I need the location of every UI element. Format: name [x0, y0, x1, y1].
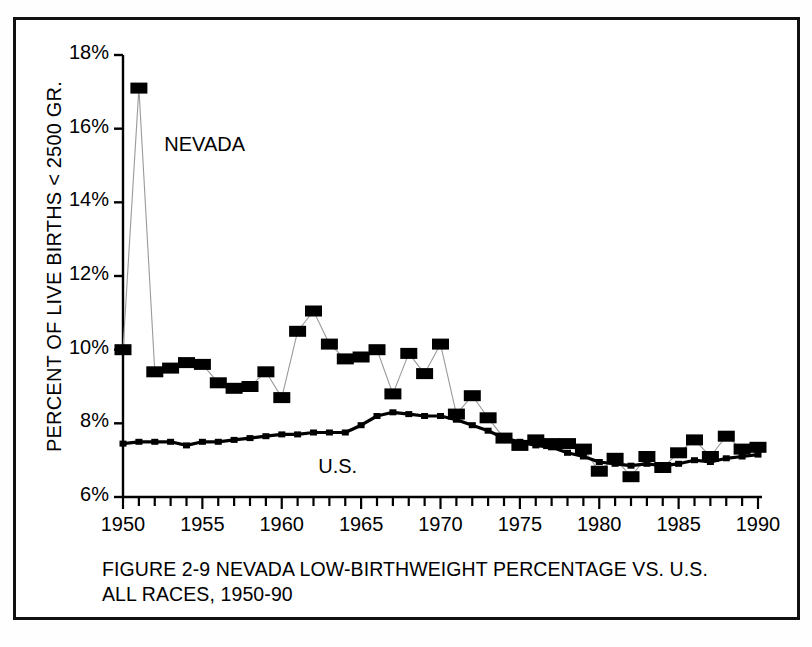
data-point-marker [310, 430, 317, 436]
figure-root: PERCENT OF LIVE BIRTHS < 2500 GR. 18%16%… [0, 0, 812, 647]
data-point-marker [612, 461, 619, 467]
data-point-marker [135, 439, 142, 445]
data-point-marker [670, 447, 687, 458]
data-point-marker [480, 412, 497, 423]
data-point-marker [691, 457, 698, 463]
data-point-marker [210, 377, 227, 388]
data-point-marker [453, 417, 460, 423]
data-point-marker [199, 439, 206, 445]
data-point-marker [358, 422, 365, 428]
data-point-marker [167, 439, 174, 445]
data-point-marker [469, 422, 476, 428]
data-point-marker [686, 434, 703, 445]
data-point-marker [384, 388, 401, 399]
data-point-marker [575, 444, 592, 455]
data-point-marker [532, 442, 539, 448]
data-point-marker [437, 413, 444, 419]
series-annotation-us: U.S. [318, 455, 357, 478]
data-point-marker [485, 428, 492, 434]
caption-line-1: FIGURE 2-9 NEVADA LOW-BIRTHWEIGHT PERCEN… [102, 557, 762, 582]
data-point-marker [421, 413, 428, 419]
x-tick-label: 1960 [237, 513, 327, 536]
data-point-marker [321, 339, 338, 350]
y-tick-label: 16% [27, 115, 109, 138]
data-point-marker [231, 437, 238, 443]
data-point-marker [559, 438, 576, 449]
data-point-marker [353, 352, 370, 363]
data-point-marker [278, 431, 285, 437]
data-point-marker [623, 471, 640, 482]
data-point-marker [501, 435, 508, 441]
data-point-marker [405, 411, 412, 417]
data-point-marker [289, 326, 306, 337]
data-point-marker [750, 442, 767, 453]
data-point-marker [416, 368, 433, 379]
y-tick-label: 12% [27, 262, 109, 285]
figure-border-frame: PERCENT OF LIVE BIRTHS < 2500 GR. 18%16%… [13, 17, 800, 620]
data-point-marker [178, 357, 195, 368]
data-point-marker [591, 466, 608, 477]
series-annotation-nevada: NEVADA [164, 133, 245, 156]
x-tick-label: 1975 [475, 513, 565, 536]
x-tick-label: 1950 [78, 513, 168, 536]
data-point-marker [400, 348, 417, 359]
x-tick-label: 1985 [634, 513, 724, 536]
data-point-marker [675, 461, 682, 467]
data-point-marker [564, 450, 571, 456]
plot-area: 18%16%14%12%10%8%6%195019551960196519701… [16, 20, 803, 623]
data-point-marker [628, 463, 635, 469]
data-point-marker [326, 430, 333, 436]
data-point-marker [183, 442, 190, 448]
y-tick-label: 18% [27, 41, 109, 64]
x-tick-label: 1990 [713, 513, 803, 536]
x-tick-label: 1970 [396, 513, 486, 536]
data-point-marker [337, 353, 354, 364]
data-point-marker [115, 344, 132, 355]
data-point-marker [464, 390, 481, 401]
data-point-marker [305, 306, 322, 317]
series-us [120, 409, 762, 468]
data-point-marker [273, 392, 290, 403]
data-point-marker [215, 439, 222, 445]
data-point-marker [596, 459, 603, 465]
x-tick-label: 1980 [554, 513, 644, 536]
data-point-marker [369, 344, 386, 355]
x-tick-label: 1965 [316, 513, 406, 536]
data-point-marker [120, 441, 127, 447]
data-point-marker [389, 409, 396, 415]
x-tick-label: 1955 [157, 513, 247, 536]
caption-line-2: ALL RACES, 1950-90 [102, 582, 762, 607]
data-point-marker [194, 359, 211, 370]
data-point-marker [294, 431, 301, 437]
y-tick-label: 14% [27, 188, 109, 211]
data-point-marker [130, 83, 147, 94]
data-point-marker [739, 454, 746, 460]
data-point-marker [659, 463, 666, 469]
data-point-marker [262, 433, 269, 439]
data-point-marker [734, 444, 751, 455]
data-point-marker [432, 339, 449, 350]
data-point-marker [718, 431, 735, 442]
data-point-marker [151, 439, 158, 445]
y-tick-label: 6% [27, 483, 109, 506]
data-point-marker [162, 363, 179, 374]
data-point-marker [755, 452, 762, 458]
y-tick-label: 8% [27, 409, 109, 432]
data-point-marker [707, 459, 714, 465]
data-point-marker [374, 413, 381, 419]
figure-caption: FIGURE 2-9 NEVADA LOW-BIRTHWEIGHT PERCEN… [102, 557, 762, 607]
data-point-marker [548, 444, 555, 450]
data-point-marker [257, 366, 274, 377]
data-point-marker [638, 451, 655, 462]
data-point-marker [146, 366, 163, 377]
data-point-marker [580, 454, 587, 460]
data-point-marker [723, 455, 730, 461]
data-point-marker [242, 381, 259, 392]
y-tick-label: 10% [27, 336, 109, 359]
data-point-marker [643, 461, 650, 467]
data-point-marker [516, 439, 523, 445]
data-point-marker [226, 383, 243, 394]
data-point-marker [247, 435, 254, 441]
data-point-marker [342, 430, 349, 436]
